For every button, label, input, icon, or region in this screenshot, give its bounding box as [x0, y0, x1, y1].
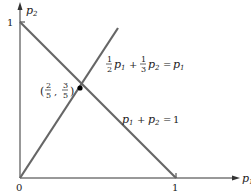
diagram-canvas: p2 p1 1 1 0 1 2 p1 + 1 3 p2 = p1 p1 + p2… — [0, 0, 251, 194]
svg-text:p1: p1 — [122, 113, 134, 127]
intersection-label: ( 2 5 , 3 5 ) — [40, 81, 74, 100]
equilibrium-line-label: 1 2 p1 + 1 3 p2 = p1 — [106, 55, 185, 74]
svg-text:2: 2 — [107, 65, 112, 74]
origin-label: 0 — [16, 182, 22, 193]
equilibrium-line — [20, 28, 118, 178]
svg-text:1: 1 — [107, 55, 112, 64]
svg-text:5: 5 — [63, 91, 68, 100]
y-axis-arrow-icon — [18, 2, 23, 10]
svg-text:(: ( — [40, 85, 44, 98]
svg-text:1: 1 — [141, 55, 146, 64]
x-axis-label: p1 — [242, 172, 251, 186]
svg-text:p1: p1 — [173, 58, 185, 72]
svg-text:): ) — [70, 85, 74, 98]
svg-text:5: 5 — [46, 91, 51, 100]
intersection-point — [77, 85, 82, 90]
svg-text:,: , — [54, 86, 57, 97]
svg-text:p2: p2 — [148, 58, 160, 72]
svg-text:p2: p2 — [148, 113, 160, 127]
budget-line — [20, 22, 176, 178]
x-axis-arrow-icon — [232, 176, 240, 181]
svg-text:3: 3 — [141, 65, 146, 74]
y-tick-label: 1 — [7, 17, 13, 28]
svg-text:p1: p1 — [114, 58, 126, 72]
svg-text:+: + — [129, 59, 137, 70]
svg-text:3: 3 — [63, 81, 68, 90]
svg-text:+: + — [137, 114, 145, 125]
svg-text:2: 2 — [46, 81, 51, 90]
svg-text:=: = — [163, 59, 171, 70]
svg-text:1: 1 — [173, 114, 179, 125]
y-axis-label: p2 — [26, 4, 38, 18]
svg-text:=: = — [163, 114, 171, 125]
x-tick-label: 1 — [172, 182, 178, 193]
budget-line-label: p1 + p2 = 1 — [122, 113, 179, 127]
